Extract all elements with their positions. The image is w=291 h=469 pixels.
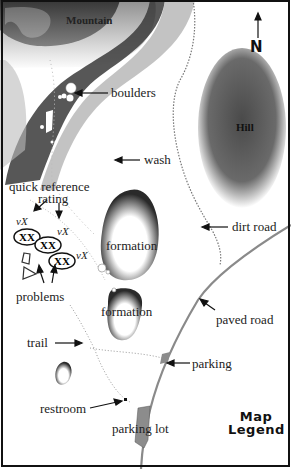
map-legend: N Mountain Hill boulders wash dirt road … xyxy=(0,0,291,469)
map-legend-title: Map Legend xyxy=(228,410,284,436)
grade-label-3: vX xyxy=(76,250,88,261)
hill-label: Hill xyxy=(236,122,254,133)
small-rock-shape xyxy=(55,362,71,385)
problems-label: problems xyxy=(16,290,64,303)
restroom-marker xyxy=(124,398,127,401)
map-graphic xyxy=(0,0,291,469)
restroom-label: restroom xyxy=(40,402,86,415)
legend-title-line2: Legend xyxy=(228,423,284,436)
wash-label: wash xyxy=(144,153,171,166)
grade-label-2: vX xyxy=(57,226,69,237)
paved-road-label: paved road xyxy=(216,313,273,326)
trail-label: trail xyxy=(27,336,48,349)
formation-1-shape xyxy=(101,189,159,280)
formation-label-1: formation xyxy=(106,239,157,252)
rating-label: rating xyxy=(38,192,68,205)
grade-label-1: vX xyxy=(16,216,28,227)
north-label: N xyxy=(250,38,263,56)
boulders-label: boulders xyxy=(111,86,156,99)
parking-lot-label: parking lot xyxy=(112,422,169,435)
parking-label: parking xyxy=(192,357,232,370)
formation-label-2: formation xyxy=(101,305,152,318)
dirt-road-label: dirt road xyxy=(232,220,276,233)
mountain-label: Mountain xyxy=(66,15,112,26)
rating-badge-2: XX xyxy=(35,240,61,251)
rating-badge-3: XX xyxy=(49,256,75,267)
